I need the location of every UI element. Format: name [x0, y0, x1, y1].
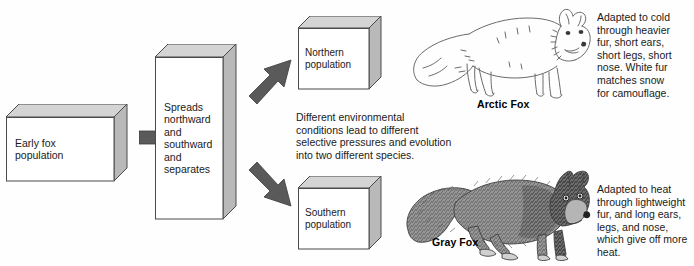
gray-fox-illustration — [404, 160, 599, 264]
arrow-up-right-icon — [243, 54, 299, 106]
arrow-down-right-icon — [243, 160, 299, 212]
box-early-fox-population: Early fox population — [6, 104, 128, 182]
box-northern-population: Northern population — [298, 16, 382, 90]
box-spreads-label: Spreads northward and southward and sepa… — [155, 101, 216, 176]
note-arctic-adaptations: Adapted to cold through heavier fur, sho… — [597, 11, 693, 99]
note-gray-adaptations: Adapted to heat through lightweight fur,… — [597, 183, 693, 259]
box-early-fox-label: Early fox population — [6, 137, 67, 162]
gray-fox-label: Gray Fox — [432, 236, 478, 248]
box-spreads-separates: Spreads northward and southward and sepa… — [155, 44, 237, 220]
box-southern-label: Southern population — [298, 207, 355, 231]
arctic-fox-illustration — [409, 2, 594, 102]
note-environmental-conditions: Different environmental conditions lead … — [296, 111, 486, 161]
arctic-fox-label: Arctic Fox — [477, 98, 529, 110]
box-northern-label: Northern population — [298, 47, 355, 71]
diagram-canvas: Early fox population Spreads northward a… — [0, 0, 694, 266]
box-southern-population: Southern population — [298, 176, 382, 250]
